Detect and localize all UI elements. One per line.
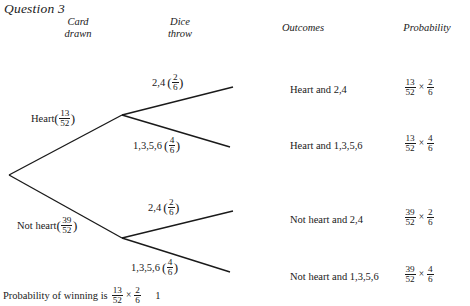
fraction-numerator: 13 (59, 109, 70, 118)
outcome-text: Heart and 2,4 (290, 84, 347, 95)
paren-open-icon: ( (56, 219, 60, 232)
fraction-second: 4 6 (427, 265, 434, 285)
branch-label-not-heart: Not heart ( 39 52 ) (17, 216, 77, 236)
column-header-card-line1: Card (46, 16, 110, 28)
branch-label-not-heart-text: Not heart (17, 221, 56, 232)
probability-expression: 13 52 × 4 6 (404, 134, 434, 154)
fraction-numerator: 2 (172, 73, 179, 82)
fraction-first: 13 52 (405, 78, 416, 98)
probability-expression: 39 52 × 2 6 (404, 208, 434, 228)
branch-label-heart-text: Heart (31, 114, 54, 125)
fraction-numerator: 4 (167, 258, 174, 267)
paren-open-icon: ( (163, 201, 167, 214)
fraction-first: 39 52 (405, 265, 416, 285)
branch-label-dice-1-text: 2,4 (152, 78, 165, 89)
fraction-denominator: 52 (59, 118, 70, 128)
fraction-dice-2: 4 6 (169, 136, 176, 156)
fraction-denominator: 52 (405, 87, 416, 97)
fraction-denominator: 52 (405, 143, 416, 153)
branch-label-dice-3-text: 2,4 (148, 203, 161, 214)
multiplication-icon: × (419, 139, 424, 149)
fraction-first: 13 52 (112, 286, 123, 306)
multiplication-icon: × (419, 213, 424, 223)
multiplication-icon: × (419, 83, 424, 93)
paren-close-icon: ) (71, 112, 75, 125)
fraction-numerator: 39 (405, 208, 416, 217)
fraction-first: 13 52 (405, 134, 416, 154)
fraction-numerator: 13 (405, 134, 416, 143)
probability-expression: 13 52 × 2 6 (404, 78, 434, 98)
probability-expression: 39 52 × 4 6 (404, 265, 434, 285)
outcome-text: Not heart and 2,4 (290, 214, 363, 225)
fraction-denominator: 6 (168, 207, 175, 217)
fraction-denominator: 6 (167, 267, 174, 277)
fraction-dice-4: 4 6 (167, 258, 174, 278)
branch-label-dice-2: 1,3,5,6 ( 4 6 ) (133, 136, 180, 156)
fraction-numerator: 4 (427, 134, 434, 143)
branch-label-dice-2-text: 1,3,5,6 (133, 141, 162, 152)
paren-close-icon: ) (175, 201, 179, 214)
fraction-second: 4 6 (427, 134, 434, 154)
fraction-denominator: 6 (427, 274, 434, 284)
paren-open-icon: ( (164, 139, 168, 152)
multiplication-icon: × (419, 270, 424, 280)
column-header-card-drawn: Card drawn (46, 16, 110, 39)
outcome-text: Not heart and 1,3,5,6 (290, 271, 379, 282)
fraction-denominator: 52 (405, 217, 416, 227)
fraction-dice-3: 2 6 (168, 198, 175, 218)
outcome-text: Heart and 1,3,5,6 (290, 140, 363, 151)
column-header-card-line2: drawn (46, 28, 110, 40)
fraction-numerator: 2 (427, 78, 434, 87)
branch-label-dice-4-text: 1,3,5,6 (131, 263, 160, 274)
column-header-dice-line1: Dice (148, 16, 212, 28)
multiplication-icon: × (126, 291, 131, 301)
paren-close-icon: ) (179, 76, 183, 89)
fraction-denominator: 6 (427, 87, 434, 97)
fraction-numerator: 4 (427, 265, 434, 274)
branch-label-dice-1: 2,4 ( 2 6 ) (152, 73, 183, 93)
fraction-denominator: 6 (172, 82, 179, 92)
fraction-numerator: 13 (405, 78, 416, 87)
fraction-numerator: 2 (427, 208, 434, 217)
fraction-second: 2 6 (427, 78, 434, 98)
paren-close-icon: ) (174, 261, 178, 274)
fraction-dice-1: 2 6 (172, 73, 179, 93)
paren-open-icon: ( (54, 112, 58, 125)
fraction-numerator: 2 (168, 198, 175, 207)
footer-text: Probability of winning is (3, 291, 108, 302)
fraction-denominator: 6 (169, 145, 176, 155)
page-title: Question 3 (4, 1, 65, 17)
paren-open-icon: ( (167, 76, 171, 89)
fraction-denominator: 52 (61, 225, 72, 235)
column-header-dice-throw: Dice throw (148, 16, 212, 39)
fraction-denominator: 52 (112, 295, 123, 305)
branch-label-dice-4: 1,3,5,6 ( 4 6 ) (131, 258, 178, 278)
column-header-outcomes: Outcomes (258, 22, 348, 34)
fraction-numerator: 4 (169, 136, 176, 145)
fraction-numerator: 13 (112, 286, 123, 295)
fraction-numerator: 39 (405, 265, 416, 274)
fraction-numerator: 2 (134, 286, 141, 295)
footer-trailing: 1 (155, 291, 160, 302)
fraction-denominator: 6 (427, 143, 434, 153)
branch-label-dice-3: 2,4 ( 2 6 ) (148, 198, 179, 218)
fraction-heart: 13 52 (59, 109, 70, 129)
fraction-first: 39 52 (405, 208, 416, 228)
fraction-second: 2 6 (134, 286, 141, 306)
paren-close-icon: ) (176, 139, 180, 152)
fraction-denominator: 6 (427, 217, 434, 227)
column-header-dice-line2: throw (148, 28, 212, 40)
paren-close-icon: ) (73, 219, 77, 232)
fraction-denominator: 52 (405, 274, 416, 284)
paren-open-icon: ( (162, 261, 166, 274)
fraction-numerator: 39 (61, 216, 72, 225)
branch-label-heart: Heart ( 13 52 ) (31, 109, 75, 129)
fraction-second: 2 6 (427, 208, 434, 228)
fraction-denominator: 6 (134, 295, 141, 305)
footer-summary: Probability of winning is 13 52 × 2 6 1 (3, 286, 161, 306)
fraction-not-heart: 39 52 (61, 216, 72, 236)
column-header-probability: Probability (382, 22, 470, 34)
